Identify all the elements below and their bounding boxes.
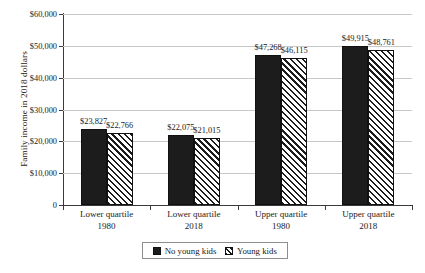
bar-value-label: $22,075 [167, 123, 194, 132]
x-axis-tick-mark [63, 205, 64, 210]
y-axis-tick-label: $20,000 [6, 137, 57, 146]
hatched-square-icon [225, 247, 233, 255]
y-axis-tick-label: $60,000 [6, 10, 57, 19]
bar [107, 133, 133, 205]
bar-value-label: $23,827 [80, 117, 107, 126]
category-line-2: 1980 [255, 221, 307, 233]
category-line-1: Upper quartile [255, 209, 307, 221]
bar-chart: Family income in 2018 dollars $60,000$50… [0, 0, 425, 273]
x-axis-tick-mark [150, 205, 151, 210]
bar-value-label: $47,268 [255, 43, 282, 52]
category-line-2: 1980 [80, 221, 133, 233]
x-axis-category-label: Lower quartile2018 [167, 209, 220, 232]
chart-legend: No young kids Young kids [142, 242, 288, 259]
category-line-2: 2018 [167, 221, 220, 233]
category-line-2: 2018 [342, 221, 394, 233]
bar [168, 135, 194, 205]
legend-label: No young kids [165, 246, 217, 256]
legend-label: Young kids [237, 246, 277, 256]
x-axis-tick-mark [412, 205, 413, 210]
bar [255, 55, 281, 205]
category-line-1: Lower quartile [167, 209, 220, 221]
y-axis-tick-label: $30,000 [6, 105, 57, 114]
x-axis-category-label: Lower quartile1980 [80, 209, 133, 232]
y-axis-tick-label: $50,000 [6, 41, 57, 50]
bar [342, 46, 368, 205]
bar-value-label: $48,761 [368, 38, 395, 47]
bar-value-label: $46,115 [281, 46, 308, 55]
legend-item-no-young-kids: No young kids [153, 246, 216, 256]
solid-square-icon [153, 247, 161, 255]
bar-value-label: $49,915 [342, 34, 369, 43]
bar-value-label: $22,766 [106, 121, 133, 130]
x-axis-category-label: Upper quartile2018 [342, 209, 394, 232]
bar [81, 129, 107, 205]
category-line-1: Lower quartile [80, 209, 133, 221]
y-axis-tick-label: $40,000 [6, 73, 57, 82]
bar [194, 138, 220, 205]
bar-value-label: $21,015 [193, 126, 220, 135]
bar [281, 58, 307, 205]
y-axis-tick-label: $10,000 [6, 169, 57, 178]
bar [368, 50, 394, 205]
x-axis-tick-mark [238, 205, 239, 210]
category-line-1: Upper quartile [342, 209, 394, 221]
x-axis-tick-mark [325, 205, 326, 210]
legend-item-young-kids: Young kids [225, 246, 276, 256]
y-axis-tick-label: 0 [6, 201, 57, 210]
x-axis-category-label: Upper quartile1980 [255, 209, 307, 232]
